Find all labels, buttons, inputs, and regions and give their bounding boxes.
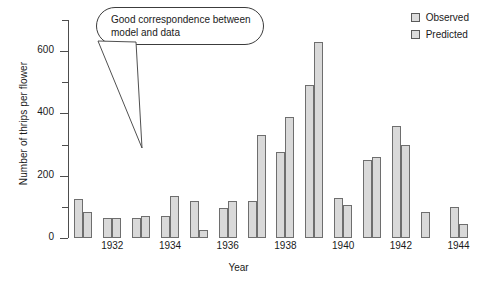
bar-observed[interactable]	[421, 212, 430, 238]
y-tick-mark	[60, 113, 68, 114]
bar-group	[392, 20, 410, 238]
bar-observed[interactable]	[450, 207, 459, 238]
y-tick-mark	[60, 176, 68, 177]
plot-area	[69, 20, 473, 238]
bar-predicted[interactable]	[401, 145, 410, 238]
bar-predicted[interactable]	[343, 205, 352, 238]
y-tick-mark	[62, 82, 68, 83]
bar-predicted[interactable]	[228, 201, 237, 238]
x-tick-label: 1940	[316, 240, 370, 251]
y-tick-mark	[60, 238, 68, 239]
bar-group	[132, 20, 150, 238]
x-tick-label: 1944	[432, 240, 477, 251]
bar-observed[interactable]	[248, 201, 257, 238]
bar-observed[interactable]	[305, 85, 314, 238]
bar-group	[219, 20, 237, 238]
x-tick-label: 1942	[374, 240, 428, 251]
bar-predicted[interactable]	[459, 224, 468, 238]
legend-item-predicted[interactable]: Predicted	[411, 29, 469, 40]
y-tick-label: 600	[14, 44, 54, 55]
bar-observed[interactable]	[74, 199, 83, 238]
bar-group	[421, 20, 439, 238]
legend-label: Predicted	[426, 29, 468, 40]
thrips-per-flower-bar-chart: Number of thrips per flower 0200400600 1…	[0, 0, 477, 286]
bar-predicted[interactable]	[285, 117, 294, 238]
legend-swatch-icon	[411, 13, 420, 22]
bar-observed[interactable]	[103, 218, 112, 238]
bar-predicted[interactable]	[372, 157, 381, 238]
bar-predicted[interactable]	[141, 216, 150, 238]
bar-group	[161, 20, 179, 238]
legend-swatch-icon	[411, 30, 420, 39]
bar-predicted[interactable]	[314, 42, 323, 238]
bar-predicted[interactable]	[112, 218, 121, 238]
bar-group	[276, 20, 294, 238]
bar-predicted[interactable]	[257, 135, 266, 238]
x-axis-title: Year	[0, 262, 477, 273]
bar-group	[305, 20, 323, 238]
x-tick-label: 1936	[201, 240, 255, 251]
y-tick-mark	[60, 51, 68, 52]
bar-observed[interactable]	[161, 216, 170, 238]
bar-group	[248, 20, 266, 238]
x-tick-label: 1938	[258, 240, 312, 251]
y-tick-label: 400	[14, 106, 54, 117]
bar-group	[450, 20, 468, 238]
y-tick-label: 0	[14, 231, 54, 242]
bar-group	[190, 20, 208, 238]
y-tick-label: 200	[14, 169, 54, 180]
y-tick-mark	[62, 20, 68, 21]
legend-item-observed[interactable]: Observed	[411, 12, 469, 23]
bar-predicted[interactable]	[199, 230, 208, 238]
bar-observed[interactable]	[334, 198, 343, 238]
bar-observed[interactable]	[190, 201, 199, 238]
bar-observed[interactable]	[363, 160, 372, 238]
bar-group	[363, 20, 381, 238]
y-tick-mark	[62, 207, 68, 208]
bar-observed[interactable]	[276, 152, 285, 238]
legend: Observed Predicted	[411, 12, 469, 46]
annotation-callout-bubble: Good correspondence between model and da…	[96, 7, 264, 45]
annotation-callout-text: Good correspondence between model and da…	[111, 13, 261, 39]
bar-observed[interactable]	[219, 208, 228, 238]
bar-group	[74, 20, 92, 238]
x-tick-label: 1934	[143, 240, 197, 251]
legend-label: Observed	[426, 12, 469, 23]
bar-predicted[interactable]	[83, 212, 92, 238]
bar-predicted[interactable]	[170, 196, 179, 238]
bar-group	[103, 20, 121, 238]
bar-observed[interactable]	[132, 218, 141, 238]
y-tick-mark	[62, 145, 68, 146]
bar-group	[334, 20, 352, 238]
x-tick-label: 1932	[85, 240, 139, 251]
bar-observed[interactable]	[392, 126, 401, 238]
y-axis-title: Number of thrips per flower	[18, 39, 29, 209]
